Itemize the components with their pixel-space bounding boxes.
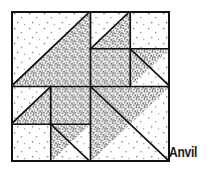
patch-r2c1 xyxy=(51,87,91,125)
patch-r1c2 xyxy=(91,49,131,87)
block-title-label: Anvil xyxy=(169,145,197,160)
quilt-block-figure: Anvil xyxy=(0,0,211,171)
quilt-block-diagram xyxy=(11,11,170,162)
